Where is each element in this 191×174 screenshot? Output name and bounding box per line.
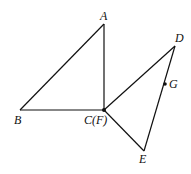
label-b: B bbox=[14, 114, 21, 126]
label-e: E bbox=[139, 153, 146, 165]
point-c-dot bbox=[102, 108, 106, 112]
point-g-dot bbox=[163, 82, 167, 86]
segment-ab bbox=[20, 24, 104, 110]
label-c-f: C(F) bbox=[84, 114, 107, 126]
geometry-diagram: A B C(F) D G E bbox=[0, 0, 191, 174]
label-d: D bbox=[175, 32, 184, 44]
segment-ce bbox=[104, 110, 144, 151]
label-a: A bbox=[100, 10, 107, 22]
label-g: G bbox=[169, 78, 178, 90]
diagram-lines bbox=[0, 0, 191, 174]
segment-de bbox=[144, 46, 175, 151]
segment-cd bbox=[104, 46, 175, 110]
